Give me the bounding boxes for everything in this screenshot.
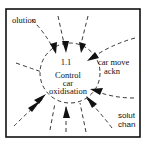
process-name-line3: oxidisation — [49, 86, 88, 96]
data-flow-diagram: olution car move ackn solut chan 1.1 Con… — [0, 0, 146, 144]
flow-label-olution: olution — [12, 15, 37, 25]
flow-label-solut: solut — [118, 111, 136, 120]
process-number: 1.1 — [61, 57, 72, 67]
flow-label-chan: chan — [118, 120, 135, 129]
flow-label-car-move-ackn-line2: ackn — [104, 66, 121, 76]
